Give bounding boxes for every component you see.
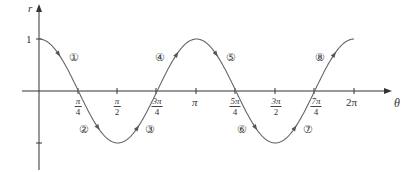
tick-label-3pi-4: 3π4 <box>151 97 162 117</box>
theta-axis-label: θ <box>394 97 400 109</box>
segment-label-7: ⑦ <box>303 123 313 136</box>
segment-label-8: ⑧ <box>315 51 325 64</box>
tick-label-3pi-2: 3π2 <box>270 97 281 117</box>
tick-label-5pi-4: 5π4 <box>229 97 240 117</box>
tick-label-pi-4: π4 <box>75 97 82 117</box>
segment-label-6: ⑥ <box>237 123 247 136</box>
r-tick-1-label: 1 <box>26 34 32 45</box>
r-axis-label: r <box>28 3 32 14</box>
tick-label-pi-2: π2 <box>114 97 121 117</box>
segment-label-4: ④ <box>155 51 165 64</box>
theta-axis-arrow-icon <box>384 88 392 94</box>
tick-label-2pi: 2π <box>346 97 357 108</box>
segment-label-1: ① <box>69 51 79 64</box>
segment-label-3: ③ <box>145 123 155 136</box>
chart-canvas <box>0 0 414 172</box>
tick-label-7pi-4: 7π4 <box>310 97 321 117</box>
tick-label-pi: π <box>192 97 198 108</box>
r-axis-arrow-icon <box>36 4 42 12</box>
segment-label-2: ② <box>79 123 89 136</box>
segment-label-5: ⑤ <box>226 51 236 64</box>
